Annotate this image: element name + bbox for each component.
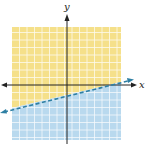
x-axis-label: x — [139, 79, 145, 90]
boundary-line-right-arrow-icon — [127, 78, 134, 83]
x-axis-right-arrow-icon — [131, 83, 137, 88]
inequality-graph: x y — [0, 0, 146, 144]
y-axis-label: y — [63, 1, 70, 12]
boundary-line-left-arrow-icon — [0, 109, 7, 114]
x-axis-left-arrow-icon — [1, 83, 7, 88]
y-axis-up-arrow-icon — [65, 14, 70, 21]
